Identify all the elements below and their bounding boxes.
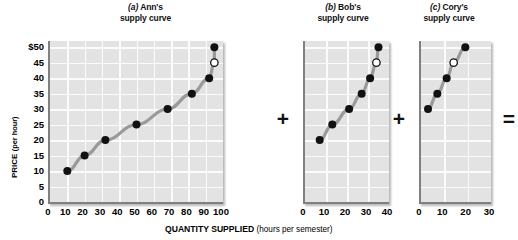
chart-title-c-prefix: (c) <box>430 2 440 12</box>
supply-curve-figure: (a) Ann's supply curve (b) Bob's supply … <box>0 0 518 240</box>
data-point-filled <box>81 152 89 160</box>
x-tick-label: 100 <box>209 207 233 217</box>
curve-line <box>67 47 214 171</box>
data-point-filled <box>101 136 109 144</box>
y-tick-label: 40 <box>4 73 44 83</box>
data-point-filled <box>205 74 213 82</box>
data-point-filled <box>375 43 383 51</box>
data-point-filled <box>345 105 353 113</box>
data-point-filled <box>164 105 172 113</box>
plot-area-ann <box>48 41 223 204</box>
plot-area-bob <box>303 41 389 204</box>
data-point-filled <box>328 121 336 129</box>
y-tick-label: 35 <box>4 89 44 99</box>
x-tick-label: 0 <box>407 207 431 217</box>
y-tick-label: 20 <box>4 135 44 145</box>
x-tick-label: 10 <box>430 207 454 217</box>
data-point-filled <box>433 90 441 98</box>
y-tick-label: $50 <box>4 42 44 52</box>
y-tick-label: 5 <box>4 182 44 192</box>
data-point-open <box>373 59 380 66</box>
x-axis-title-sub: (hours per semester) <box>257 225 333 234</box>
data-point-filled <box>316 136 324 144</box>
data-point-filled <box>424 105 432 113</box>
chart-title-c: (c) Cory's supply curve <box>402 2 496 23</box>
data-point-filled <box>443 74 451 82</box>
data-point-filled <box>461 43 469 51</box>
supply-curve-b <box>305 41 389 202</box>
x-tick-label: 20 <box>454 207 478 217</box>
equals-operator: = <box>500 108 518 129</box>
plot-area-cory <box>419 41 491 204</box>
chart-title-b: (b) Bob's supply curve <box>296 2 390 23</box>
x-tick-label: 30 <box>477 207 501 217</box>
y-tick-label: 10 <box>4 166 44 176</box>
plus-operator-2: + <box>390 108 408 129</box>
data-point-filled <box>63 167 71 175</box>
chart-title-b-line2: supply curve <box>317 13 368 23</box>
y-tick-label: 25 <box>4 120 44 130</box>
data-point-open <box>211 59 218 66</box>
chart-title-a-prefix: (a) <box>128 2 138 12</box>
y-tick-label: 45 <box>4 58 44 68</box>
curve-line <box>320 47 379 140</box>
supply-curve-c <box>421 41 491 202</box>
chart-title-b-prefix: (b) <box>325 2 336 12</box>
x-tick-label: 40 <box>375 207 399 217</box>
x-axis-title-main: QUANTITY SUPPLIED <box>165 224 254 234</box>
data-point-filled <box>133 121 141 129</box>
chart-title-c-line2: supply curve <box>423 13 474 23</box>
data-point-filled <box>188 90 196 98</box>
supply-curve-a <box>50 41 223 202</box>
chart-title-a: (a) Ann's supply curve <box>78 2 213 23</box>
chart-title-a-line2: supply curve <box>120 13 171 23</box>
y-tick-label: 15 <box>4 151 44 161</box>
data-point-filled <box>358 90 366 98</box>
data-point-open <box>450 59 457 66</box>
chart-title-a-name: Ann's <box>140 2 163 12</box>
y-tick-label: 30 <box>4 104 44 114</box>
plus-operator-1: + <box>274 108 292 129</box>
chart-title-c-name: Cory's <box>442 2 468 12</box>
data-point-filled <box>210 43 218 51</box>
x-axis-title: QUANTITY SUPPLIED (hours per semester) <box>165 224 333 234</box>
y-tick-label: 0 <box>4 197 44 207</box>
data-point-filled <box>366 74 374 82</box>
chart-title-b-name: Bob's <box>338 2 361 12</box>
